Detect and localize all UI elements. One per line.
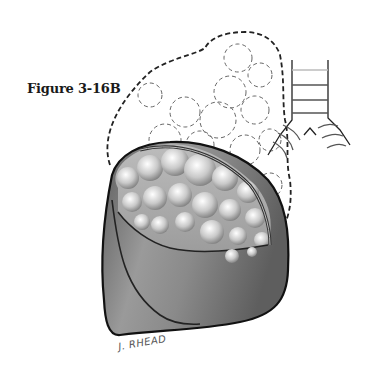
lung-illustration	[0, 0, 373, 369]
